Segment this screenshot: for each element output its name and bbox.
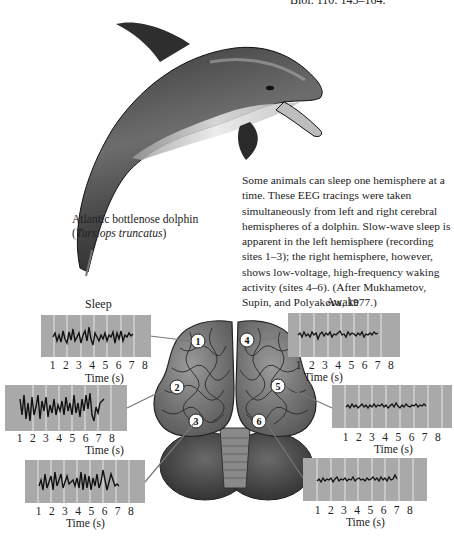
eeg-waveform [41,315,151,357]
time-axis-label-site-2: Time (s) [85,444,124,456]
eeg-waveform [5,385,127,431]
time-ticks-site-5: 12345678 [339,431,445,443]
time-ticks-site-6: 12345678 [311,504,417,516]
eeg-waveform [288,313,400,357]
eeg-trace-site-1 [41,315,151,357]
time-axis-label-site-6: Time (s) [346,516,385,528]
time-axis-label-site-1: Time (s) [85,372,124,384]
time-ticks-site-1: 12345678 [46,359,152,371]
eeg-trace-site-4 [288,313,400,357]
eeg-trace-site-6 [303,458,427,501]
eeg-trace-site-3 [25,460,145,503]
time-ticks-site-2: 12345678 [13,432,119,444]
time-axis-label-site-5: Time (s) [374,443,413,455]
eeg-waveform [332,385,452,428]
leader-lines [0,0,454,536]
time-ticks-site-4: 12345678 [292,359,398,371]
time-axis-label-site-3: Time (s) [66,517,105,529]
eeg-trace-site-5 [332,385,452,428]
eeg-waveform [303,458,427,501]
time-ticks-site-3: 12345678 [32,505,138,517]
eeg-waveform [25,460,145,503]
time-axis-label-site-4: Time (s) [304,371,343,383]
eeg-trace-site-2 [5,385,127,431]
